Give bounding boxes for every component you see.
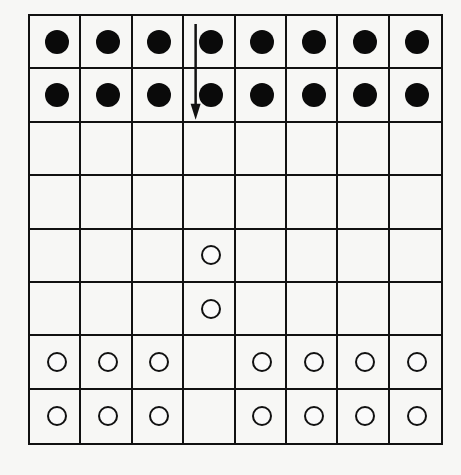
board-cell-r5-c7[interactable] <box>338 230 389 283</box>
board-cell-r8-c2[interactable] <box>81 390 132 443</box>
board-cell-r8-c6[interactable] <box>287 390 338 443</box>
board-cell-r7-c3[interactable] <box>133 336 184 389</box>
black-piece-icon[interactable] <box>199 30 223 54</box>
board-cell-r8-c7[interactable] <box>338 390 389 443</box>
board-cell-r8-c8[interactable] <box>390 390 441 443</box>
board-cell-r3-c5[interactable] <box>236 123 287 176</box>
board-cell-r4-c3[interactable] <box>133 176 184 229</box>
board-cell-r7-c8[interactable] <box>390 336 441 389</box>
board-cell-r4-c4[interactable] <box>184 176 235 229</box>
board-cell-r3-c7[interactable] <box>338 123 389 176</box>
black-piece-icon[interactable] <box>45 83 69 107</box>
board-cell-r1-c6[interactable] <box>287 16 338 69</box>
white-piece-icon[interactable] <box>304 352 324 372</box>
board-cell-r6-c1[interactable] <box>30 283 81 336</box>
black-piece-icon[interactable] <box>250 83 274 107</box>
board-cell-r6-c7[interactable] <box>338 283 389 336</box>
board-cell-r5-c6[interactable] <box>287 230 338 283</box>
white-piece-icon[interactable] <box>407 406 427 426</box>
board-cell-r5-c2[interactable] <box>81 230 132 283</box>
black-piece-icon[interactable] <box>199 83 223 107</box>
board-cell-r5-c5[interactable] <box>236 230 287 283</box>
black-piece-icon[interactable] <box>147 30 171 54</box>
board-cell-r2-c3[interactable] <box>133 69 184 122</box>
board-cell-r5-c4[interactable] <box>184 230 235 283</box>
white-piece-icon[interactable] <box>355 406 375 426</box>
board-cell-r3-c1[interactable] <box>30 123 81 176</box>
board-cell-r1-c8[interactable] <box>390 16 441 69</box>
black-piece-icon[interactable] <box>353 30 377 54</box>
board-cell-r4-c6[interactable] <box>287 176 338 229</box>
black-piece-icon[interactable] <box>302 83 326 107</box>
board-cell-r6-c2[interactable] <box>81 283 132 336</box>
board-cell-r4-c8[interactable] <box>390 176 441 229</box>
white-piece-icon[interactable] <box>304 406 324 426</box>
white-piece-icon[interactable] <box>149 406 169 426</box>
board-cell-r4-c7[interactable] <box>338 176 389 229</box>
white-piece-icon[interactable] <box>201 245 221 265</box>
board-cell-r1-c4[interactable] <box>184 16 235 69</box>
board-cell-r8-c5[interactable] <box>236 390 287 443</box>
board-cell-r6-c8[interactable] <box>390 283 441 336</box>
board-cell-r2-c5[interactable] <box>236 69 287 122</box>
board-cell-r3-c6[interactable] <box>287 123 338 176</box>
white-piece-icon[interactable] <box>98 352 118 372</box>
board-cell-r4-c2[interactable] <box>81 176 132 229</box>
board-cell-r3-c3[interactable] <box>133 123 184 176</box>
board-cell-r5-c1[interactable] <box>30 230 81 283</box>
board-cell-r3-c8[interactable] <box>390 123 441 176</box>
board-cell-r3-c4[interactable] <box>184 123 235 176</box>
board-cell-r6-c3[interactable] <box>133 283 184 336</box>
board-cell-r3-c2[interactable] <box>81 123 132 176</box>
diagram-stage <box>0 0 461 475</box>
board-cell-r5-c3[interactable] <box>133 230 184 283</box>
board-cell-r8-c1[interactable] <box>30 390 81 443</box>
black-piece-icon[interactable] <box>302 30 326 54</box>
board-cell-r2-c6[interactable] <box>287 69 338 122</box>
board-cell-r1-c3[interactable] <box>133 16 184 69</box>
board-cell-r8-c3[interactable] <box>133 390 184 443</box>
black-piece-icon[interactable] <box>147 83 171 107</box>
board-cell-r6-c6[interactable] <box>287 283 338 336</box>
board-cell-r8-c4[interactable] <box>184 390 235 443</box>
board-cell-r7-c5[interactable] <box>236 336 287 389</box>
white-piece-icon[interactable] <box>355 352 375 372</box>
board-cell-r2-c2[interactable] <box>81 69 132 122</box>
board-cell-r2-c1[interactable] <box>30 69 81 122</box>
black-piece-icon[interactable] <box>45 30 69 54</box>
black-piece-icon[interactable] <box>405 30 429 54</box>
white-piece-icon[interactable] <box>252 406 272 426</box>
board-cell-r6-c4[interactable] <box>184 283 235 336</box>
board-cell-r4-c1[interactable] <box>30 176 81 229</box>
game-board <box>28 14 443 445</box>
board-cell-r1-c1[interactable] <box>30 16 81 69</box>
black-piece-icon[interactable] <box>250 30 274 54</box>
white-piece-icon[interactable] <box>47 352 67 372</box>
board-cell-r7-c6[interactable] <box>287 336 338 389</box>
black-piece-icon[interactable] <box>353 83 377 107</box>
board-cell-r2-c8[interactable] <box>390 69 441 122</box>
board-cell-r7-c7[interactable] <box>338 336 389 389</box>
white-piece-icon[interactable] <box>98 406 118 426</box>
white-piece-icon[interactable] <box>47 406 67 426</box>
white-piece-icon[interactable] <box>149 352 169 372</box>
board-cell-r7-c2[interactable] <box>81 336 132 389</box>
board-cell-r6-c5[interactable] <box>236 283 287 336</box>
black-piece-icon[interactable] <box>96 83 120 107</box>
white-piece-icon[interactable] <box>407 352 427 372</box>
white-piece-icon[interactable] <box>252 352 272 372</box>
white-piece-icon[interactable] <box>201 299 221 319</box>
board-cell-r7-c4[interactable] <box>184 336 235 389</box>
board-cell-r1-c5[interactable] <box>236 16 287 69</box>
board-cell-r1-c2[interactable] <box>81 16 132 69</box>
board-cell-r2-c4[interactable] <box>184 69 235 122</box>
board-cell-r5-c8[interactable] <box>390 230 441 283</box>
board-cell-r2-c7[interactable] <box>338 69 389 122</box>
board-cell-r7-c1[interactable] <box>30 336 81 389</box>
board-cell-r4-c5[interactable] <box>236 176 287 229</box>
board-cell-r1-c7[interactable] <box>338 16 389 69</box>
black-piece-icon[interactable] <box>405 83 429 107</box>
black-piece-icon[interactable] <box>96 30 120 54</box>
